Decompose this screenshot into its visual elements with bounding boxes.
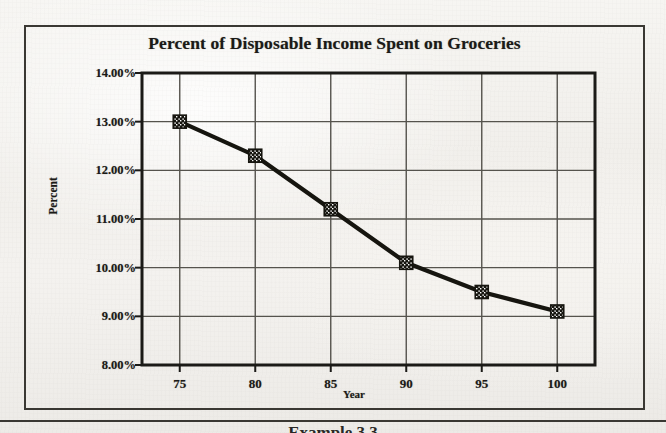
data-point-marker-100	[551, 305, 564, 318]
data-point-marker-75	[173, 115, 186, 128]
series-polyline	[180, 122, 558, 312]
horizontal-gridlines	[142, 122, 595, 317]
data-point-marker-85	[324, 203, 337, 216]
data-series-line	[180, 122, 558, 312]
bottom-horizontal-rule	[0, 420, 666, 422]
plot-area	[0, 0, 666, 433]
bottom-caption-clipped: Example 3.3	[0, 424, 666, 433]
data-point-marker-90	[400, 256, 413, 269]
data-point-marker-80	[249, 149, 262, 162]
data-point-marker-95	[475, 286, 488, 299]
